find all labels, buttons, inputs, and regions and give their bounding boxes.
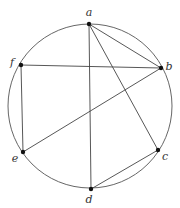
edge-f-b (21, 65, 161, 68)
edge-a-c (89, 24, 158, 150)
vertex-label-c: c (162, 150, 168, 163)
edge-a-d (89, 24, 91, 189)
edges (21, 24, 161, 189)
vertex-a (87, 22, 91, 26)
vertex-label-d: d (85, 193, 92, 206)
edge-f-e (21, 65, 23, 152)
vertex-label-a: a (86, 6, 93, 19)
vertex-c (156, 148, 160, 152)
edge-d-c (91, 150, 158, 189)
vertex-e (21, 150, 25, 154)
edge-e-b (23, 68, 161, 152)
vertex-label-f: f (9, 56, 16, 69)
vertex-label-b: b (165, 60, 172, 73)
vertex-label-e: e (12, 152, 19, 165)
vertex-f (19, 63, 23, 67)
vertex-b (159, 66, 163, 70)
graph-diagram: abcdef (0, 0, 180, 208)
edge-a-b (89, 24, 161, 68)
vertex-d (89, 187, 93, 191)
